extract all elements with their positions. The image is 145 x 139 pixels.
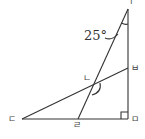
- segment-left-to-right-mid: [22, 68, 128, 119]
- point-label-top: ㄱ: [125, 0, 133, 7]
- point-label-right-angle: ㅁ: [131, 115, 139, 124]
- segment-top-to-bottom-mid: [78, 9, 128, 119]
- point-label-bottom-mid: ㄹ: [73, 121, 81, 130]
- point-label-right-mid: ㅂ: [131, 64, 139, 73]
- point-label-left: ㄷ: [8, 115, 16, 124]
- geometry-figure: [0, 0, 145, 139]
- angle-label: 25°: [84, 29, 107, 42]
- point-label-intersection: ㄴ: [83, 74, 91, 83]
- angle-arc-top: [122, 23, 129, 24]
- right-angle-marker: [121, 112, 128, 119]
